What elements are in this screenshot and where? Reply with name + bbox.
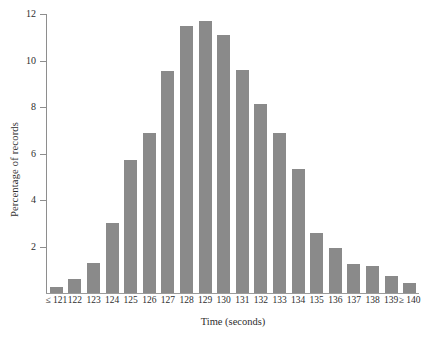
y-tick-mark	[40, 14, 47, 15]
bar	[292, 169, 305, 293]
y-tick-label: 4	[8, 195, 36, 205]
bar	[50, 287, 63, 293]
x-axis-line	[46, 293, 419, 294]
bar	[385, 276, 398, 293]
bar	[329, 248, 342, 293]
y-tick-mark	[40, 154, 47, 155]
histogram-figure: Percentage of records 24681012 ≤ 1211221…	[0, 0, 436, 339]
bar	[161, 71, 174, 293]
y-tick-label: 2	[8, 242, 36, 252]
bar	[347, 264, 360, 293]
x-axis-title: Time (seconds)	[47, 316, 419, 327]
bar	[236, 70, 249, 293]
bar	[199, 21, 212, 293]
bar	[310, 233, 323, 293]
y-tick-mark	[40, 61, 47, 62]
bar	[68, 279, 81, 293]
bar	[180, 26, 193, 293]
y-tick-label: 8	[8, 102, 36, 112]
bar	[124, 160, 137, 293]
bar	[254, 104, 267, 293]
bar	[403, 283, 416, 293]
y-tick-label: 10	[8, 56, 36, 66]
y-tick-mark	[40, 200, 47, 201]
bar	[217, 35, 230, 293]
y-tick-mark	[40, 247, 47, 248]
x-axis-ticks: ≤ 12112212312412512612712812913013113213…	[47, 296, 419, 312]
bar	[273, 133, 286, 293]
y-tick-mark	[40, 107, 47, 108]
y-axis-title: Percentage of records	[0, 0, 28, 339]
bar	[366, 266, 379, 293]
y-tick-label: 12	[8, 9, 36, 19]
bar	[87, 263, 100, 293]
bar	[106, 223, 119, 293]
y-tick-label: 6	[8, 149, 36, 159]
bar-series	[47, 14, 419, 293]
x-tick-label: ≥ 140	[395, 296, 425, 306]
bar	[143, 133, 156, 293]
